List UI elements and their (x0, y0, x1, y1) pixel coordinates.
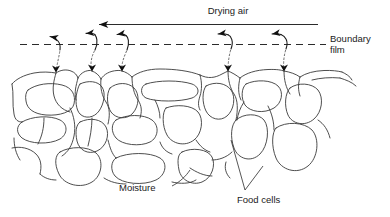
cell-upper-5 (203, 83, 234, 119)
food-cells-label: Food cells (237, 194, 281, 205)
cell-mid-6 (273, 123, 317, 170)
vapor-solid-curve-4a (228, 35, 232, 49)
vapor-arrow-3 (117, 34, 129, 71)
channel-left-blob (12, 147, 41, 174)
vapor-solid-curve-2a (95, 35, 97, 50)
vapor-solid-curve-5a (281, 35, 287, 49)
cell-upper-1 (26, 84, 75, 116)
boundary-film-label-line1: Boundary (330, 33, 371, 44)
channel-j (199, 75, 202, 110)
tissue-surface-bump-6 (200, 71, 228, 78)
food-cells-leader (231, 140, 263, 190)
cell-upper-7 (286, 84, 322, 124)
food-cells-leader-line-right (245, 166, 263, 190)
tissue-surface-bump-1 (56, 70, 78, 78)
vapor-solid-curve-1 (50, 37, 60, 51)
tissue-surface-right-2 (312, 78, 340, 80)
channel-x (340, 78, 356, 86)
tissue-surface-bump-8 (240, 69, 284, 78)
cell-upper-2 (76, 82, 104, 118)
tissue-surface-right (300, 70, 342, 77)
vapor-arrow-5 (272, 34, 288, 72)
tissue-surface-bump-5 (122, 71, 132, 77)
food-cell-tissue (12, 69, 356, 185)
cell-low-2 (112, 154, 165, 184)
channel-v (225, 162, 230, 178)
channel-h (108, 140, 116, 158)
drying-air-label: Drying air (208, 5, 249, 16)
tissue-surface-mid (132, 69, 200, 77)
channel-o (284, 71, 290, 94)
vapor-solid-curve-5b (272, 34, 281, 35)
channel-left-lower (14, 138, 20, 160)
tissue-surface-bump-3 (92, 71, 101, 79)
channel-f (88, 118, 92, 146)
channel-k (160, 142, 172, 154)
channel-i (155, 100, 160, 118)
channel-m (228, 71, 237, 120)
channel-left-edge (12, 84, 22, 122)
vapor-arrow-4 (218, 34, 232, 72)
moisture-label: Moisture (119, 182, 155, 193)
channel-p (299, 77, 301, 96)
channel-t (190, 168, 212, 176)
boundary-film-label-line2: film (330, 44, 345, 55)
tissue-surface-bump-4 (101, 70, 122, 79)
cell-mid-4 (163, 106, 201, 144)
vapor-solid-curve-2b (86, 33, 95, 35)
channel-aa (318, 120, 330, 138)
vapor-solid-curve-3a (126, 36, 129, 51)
vapor-arrow-2 (86, 33, 97, 71)
cell-upper-6 (242, 81, 281, 112)
channel-n (239, 78, 241, 100)
food-cells-leader-line-left (231, 140, 245, 190)
drying-diagram-figure: Drying air Boundary film (0, 0, 390, 217)
cell-mid-3 (112, 116, 157, 145)
cell-upper-4 (142, 81, 199, 101)
channel-c (53, 73, 70, 112)
cell-low-1 (56, 148, 101, 186)
channel-a (38, 118, 44, 144)
channel-z (40, 174, 56, 180)
tissue-surface-left (12, 72, 56, 84)
vapor-solid-curve-4b (218, 34, 228, 35)
cell-mid-5 (232, 115, 268, 159)
tissue-surface-bump-9 (284, 71, 300, 77)
cell-mid-1 (18, 117, 67, 143)
tissue-surface-bump-7 (228, 71, 240, 78)
vapor-arrow-1 (50, 37, 60, 73)
tissue-surface-bump-2 (78, 70, 92, 78)
vapor-solid-curve-3b (117, 34, 126, 35)
diagram-canvas: Drying air Boundary film (0, 0, 390, 217)
channel-l (212, 152, 232, 160)
